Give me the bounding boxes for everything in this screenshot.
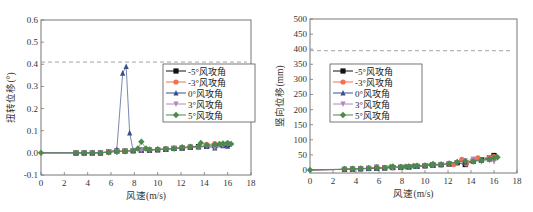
y-tick-label: 0.3 (27, 81, 39, 91)
x-tick-label: 10 (153, 178, 163, 188)
legend-label: -3°风攻角 (188, 77, 226, 88)
x-tick-label: 18 (513, 176, 523, 186)
x-tick-label: 4 (354, 176, 359, 186)
legend-marker-icon (173, 68, 178, 73)
x-tick-label: 0 (39, 178, 44, 188)
y-tick-label: -0.1 (24, 170, 38, 180)
x-axis-title: 风速(m/s) (393, 189, 433, 200)
x-tick-label: 8 (400, 176, 405, 186)
x-tick-label: 0 (308, 176, 313, 186)
legend-marker-icon (340, 79, 345, 84)
legend-label: 0°风攻角 (188, 88, 223, 99)
vertical-displacement-chart: 0246810121416180501001502002503003504004… (274, 14, 522, 200)
x-tick-label: 10 (421, 176, 431, 186)
x-tick-label: 6 (377, 176, 382, 186)
y-tick-label: 0.2 (27, 104, 38, 114)
legend-label: 5°风攻角 (188, 110, 223, 121)
legend: -5°风攻角-3°风攻角0°风攻角3°风攻角5°风攻角 (330, 64, 422, 122)
legend-label: -5°风攻角 (188, 66, 226, 77)
x-tick-label: 12 (177, 178, 186, 188)
y-tick-label: 0.6 (27, 15, 39, 25)
x-tick-label: 14 (467, 176, 477, 186)
legend-marker-icon (173, 79, 178, 84)
y-tick-label: 0 (303, 165, 308, 175)
x-tick-label: 14 (200, 178, 210, 188)
x-tick-label: 2 (331, 176, 336, 186)
y-tick-label: 400 (294, 44, 308, 54)
legend-label: 0°风攻角 (355, 88, 390, 99)
y-tick-label: 50 (298, 150, 308, 160)
data-point (138, 139, 144, 145)
x-tick-label: 18 (247, 178, 257, 188)
y-tick-label: 250 (294, 89, 308, 99)
data-point (127, 130, 132, 136)
legend-label: -5°风攻角 (355, 66, 393, 77)
y-tick-label: 0.5 (27, 37, 39, 47)
x-axis-title: 风速(m/s) (126, 191, 166, 202)
data-point (120, 70, 125, 76)
legend-label: -3°风攻角 (355, 77, 393, 88)
y-axis-title: 扭转位移(°) (5, 72, 17, 122)
x-tick-label: 16 (490, 176, 500, 186)
y-tick-label: 0.0 (27, 148, 39, 158)
data-point (124, 63, 129, 69)
legend-label: 3°风攻角 (188, 99, 223, 110)
chart-canvas: 024681012141618-0.10.00.10.20.30.40.50.6… (0, 0, 533, 212)
x-tick-label: 4 (85, 178, 90, 188)
x-tick-label: 6 (109, 178, 114, 188)
legend-label: 5°风攻角 (355, 110, 390, 121)
data-point (38, 150, 44, 156)
x-tick-label: 8 (132, 178, 137, 188)
y-tick-label: 300 (294, 74, 308, 84)
data-point (307, 167, 313, 173)
y-tick-label: 100 (294, 135, 308, 145)
x-tick-label: 2 (62, 178, 67, 188)
y-axis-title: 竖向位移(mm) (274, 65, 286, 126)
y-tick-label: 200 (294, 105, 308, 115)
y-tick-label: 500 (294, 14, 308, 24)
y-tick-label: 350 (294, 59, 308, 69)
legend-marker-icon (340, 68, 345, 73)
y-tick-label: 0.4 (27, 59, 39, 69)
legend: -5°风攻角-3°风攻角0°风攻角3°风攻角5°风攻角 (163, 64, 255, 122)
torsion-displacement-chart: 024681012141618-0.10.00.10.20.30.40.50.6… (5, 15, 256, 202)
x-tick-label: 12 (444, 176, 453, 186)
x-tick-label: 16 (223, 178, 233, 188)
y-tick-label: 150 (294, 120, 308, 130)
y-tick-label: 0.1 (27, 126, 38, 136)
y-tick-label: 450 (294, 29, 308, 39)
legend-label: 3°风攻角 (355, 99, 390, 110)
